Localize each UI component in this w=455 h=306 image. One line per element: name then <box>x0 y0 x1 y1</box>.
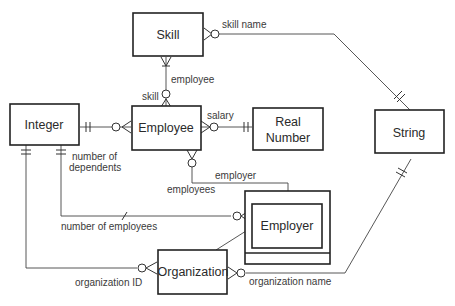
entity-string-label: String <box>393 126 426 140</box>
entity-organization[interactable]: Organization <box>158 250 229 294</box>
rel-employee-realnumber <box>201 121 252 133</box>
entity-employee-label: Employee <box>138 121 194 135</box>
entity-string[interactable]: String <box>375 110 444 153</box>
entity-skill-label: Skill <box>157 28 180 42</box>
label-salary: salary <box>207 110 234 121</box>
rel-organization-employer <box>216 231 246 250</box>
entity-employer-label: Employer <box>261 219 314 233</box>
entity-integer-label: Integer <box>25 118 64 132</box>
label-number-of-employees: number of employees <box>61 221 157 232</box>
entity-real-number-label-1: Real <box>275 115 301 129</box>
entity-skill[interactable]: Skill <box>133 13 203 56</box>
label-employee: employee <box>171 74 215 85</box>
label-dependents: dependents <box>69 162 121 173</box>
label-skill-name: skill name <box>222 19 267 30</box>
label-employer: employer <box>215 170 257 181</box>
entity-organization-label: Organization <box>158 265 229 279</box>
entity-real-number[interactable]: Real Number <box>253 108 323 150</box>
entity-real-number-label-2: Number <box>266 131 310 145</box>
entity-integer[interactable]: Integer <box>10 104 79 145</box>
label-organization-name: organization name <box>249 276 332 287</box>
entity-employer[interactable]: Employer <box>245 191 330 264</box>
rel-skill-string <box>204 28 411 111</box>
label-organization-id: organization ID <box>75 277 142 288</box>
rel-integer-employee <box>80 121 131 133</box>
label-employees: employees <box>167 184 215 195</box>
er-diagram: Skill Integer Employee Real Number Strin… <box>0 0 455 306</box>
label-skill: skill <box>142 91 159 102</box>
label-number-of: number of <box>72 151 117 162</box>
entity-employee[interactable]: Employee <box>132 106 201 150</box>
